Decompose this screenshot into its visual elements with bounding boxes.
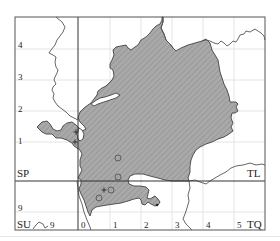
easting-label: 0 (81, 220, 86, 230)
northing-label: 4 (18, 40, 23, 50)
distribution-map: SPTLSUTQ432199012345 (0, 0, 280, 241)
easting-label: 9 (50, 220, 55, 230)
easting-label: 4 (206, 220, 211, 230)
grid-square-label-su: SU (17, 218, 31, 230)
easting-label: 5 (237, 220, 242, 230)
northing-label: 2 (18, 104, 23, 114)
easting-label: 2 (144, 220, 149, 230)
easting-label: 1 (113, 220, 118, 230)
northing-label: 9 (18, 203, 23, 213)
dot-marker-icon (156, 204, 159, 207)
divider (0, 236, 280, 237)
easting-label: 3 (175, 220, 180, 230)
river-line (33, 222, 48, 229)
grid-square-label-sp: SP (17, 167, 29, 179)
river-line (183, 181, 192, 230)
northing-label: 3 (18, 72, 23, 82)
northing-label: 1 (18, 136, 23, 146)
grid-square-label-tq: TQ (247, 218, 262, 230)
map-canvas: SPTLSUTQ432199012345 (0, 0, 280, 241)
river-line (49, 17, 78, 120)
grid-square-label-tl: TL (247, 167, 261, 179)
distribution-region (37, 17, 238, 216)
